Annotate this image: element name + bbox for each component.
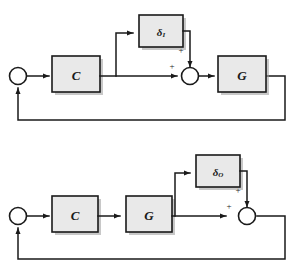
diagram-canvas: C δI + + G — [0, 0, 294, 278]
output-disturbance-block-diagram: C G δO + + — [10, 155, 286, 259]
error-sum-junction-top — [10, 68, 27, 85]
branch-to-disturbance-top — [116, 33, 133, 76]
disturbance-subscript-top: I — [161, 31, 165, 39]
input-disturbance-block-diagram: C δI + + G — [10, 15, 286, 120]
disturbance-subscript-bottom: O — [218, 171, 223, 179]
plus-sign-vertical-top: + — [178, 45, 183, 55]
plant-block-label-top: G — [237, 68, 247, 83]
error-sum-junction-bottom — [10, 208, 27, 225]
plus-sign-horizontal-bottom: + — [226, 201, 231, 211]
plant-block-label-bottom: G — [144, 208, 154, 223]
branch-to-disturbance-bottom — [175, 173, 190, 216]
controller-block-label-top: C — [72, 68, 81, 83]
controller-block-label-bottom: C — [71, 208, 80, 223]
disturbance-sum-junction-bottom — [239, 208, 256, 225]
disturbance-sum-junction-top — [182, 68, 199, 85]
plus-sign-vertical-bottom: + — [235, 185, 240, 195]
block-diagram-figure: C δI + + G — [0, 0, 294, 278]
plus-sign-horizontal-top: + — [169, 61, 174, 71]
